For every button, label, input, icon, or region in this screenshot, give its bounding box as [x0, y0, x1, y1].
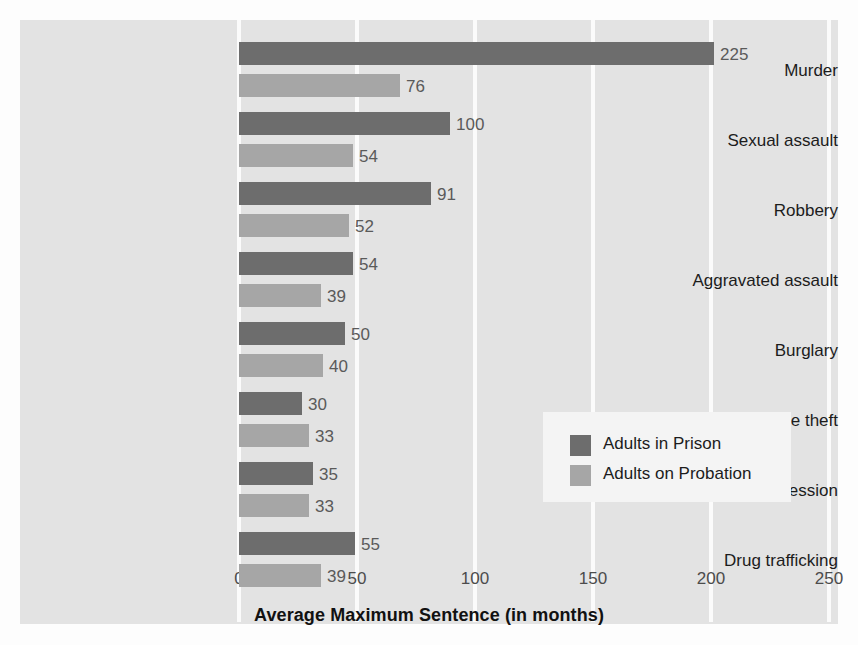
bar-value-aggravated-assault-probation: 39	[327, 287, 346, 307]
bar-value-drug-trafficking-prison: 55	[361, 535, 380, 555]
chart-legend: Adults in Prison Adults on Probation	[543, 412, 791, 502]
legend-swatch-icon-prison	[570, 435, 591, 456]
bar-value-drug-trafficking-probation: 39	[327, 567, 346, 587]
gridline-200	[709, 20, 713, 622]
category-label-sexual-assault: Sexual assault	[623, 131, 838, 151]
bar-value-motor-vehicle-theft-probation: 33	[315, 427, 334, 447]
bar-sexual-assault-prison	[239, 112, 450, 135]
bar-drug-possession-prison	[239, 462, 313, 485]
bar-value-murder-probation: 76	[406, 77, 425, 97]
bar-murder-prison	[239, 42, 714, 65]
bar-value-sexual-assault-probation: 54	[359, 147, 378, 167]
bar-value-motor-vehicle-theft-prison: 30	[308, 395, 327, 415]
bar-motor-vehicle-theft-prison	[239, 392, 302, 415]
xtick-label-150: 150	[563, 569, 623, 589]
bar-value-robbery-prison: 91	[437, 185, 456, 205]
category-label-aggravated-assault: Aggravated assault	[623, 271, 838, 291]
bar-value-sexual-assault-prison: 100	[456, 115, 484, 135]
xtick-label-100: 100	[445, 569, 505, 589]
bar-drug-possession-probation	[239, 494, 309, 517]
bar-aggravated-assault-probation	[239, 284, 321, 307]
category-label-robbery: Robbery	[623, 201, 838, 221]
bar-murder-probation	[239, 74, 400, 97]
xtick-label-200: 200	[681, 569, 741, 589]
bar-value-murder-prison: 225	[720, 45, 748, 65]
legend-swatch-icon-probation	[570, 465, 591, 486]
gridline-100	[473, 20, 477, 622]
bar-value-burglary-prison: 50	[351, 325, 370, 345]
bar-burglary-probation	[239, 354, 323, 377]
bar-value-drug-possession-prison: 35	[319, 465, 338, 485]
bar-robbery-prison	[239, 182, 431, 205]
bar-drug-trafficking-prison	[239, 532, 355, 555]
bar-drug-trafficking-probation	[239, 564, 321, 587]
gridline-50	[355, 20, 359, 622]
bar-sexual-assault-probation	[239, 144, 353, 167]
bar-value-drug-possession-probation: 33	[315, 497, 334, 517]
bar-robbery-probation	[239, 214, 349, 237]
x-axis-title: Average Maximum Sentence (in months)	[20, 605, 838, 626]
xtick-label-250: 250	[799, 569, 858, 589]
bar-value-aggravated-assault-prison: 54	[359, 255, 378, 275]
bar-burglary-prison	[239, 322, 345, 345]
gridline-150	[591, 20, 595, 622]
legend-label-adults-on-probation: Adults on Probation	[603, 464, 751, 484]
category-label-drug-trafficking: Drug trafficking	[623, 551, 838, 571]
plot-area: 0 50 100 150 200 250 Murder 225 76 Sexua…	[20, 20, 838, 624]
bar-aggravated-assault-prison	[239, 252, 353, 275]
bar-motor-vehicle-theft-probation	[239, 424, 309, 447]
legend-label-adults-in-prison: Adults in Prison	[603, 434, 721, 454]
bar-value-burglary-probation: 40	[329, 357, 348, 377]
bar-value-robbery-probation: 52	[355, 217, 374, 237]
gridline-250	[827, 20, 831, 622]
chart-figure: 0 50 100 150 200 250 Murder 225 76 Sexua…	[0, 0, 858, 645]
category-label-burglary: Burglary	[623, 341, 838, 361]
